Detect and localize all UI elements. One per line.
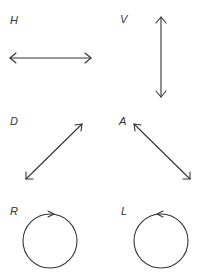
panel-r: R	[10, 205, 77, 268]
vertical-double-arrow-icon	[156, 17, 166, 97]
label-v: V	[120, 13, 129, 25]
clockwise-circle-arrow-icon	[23, 211, 77, 268]
panel-d: D	[10, 115, 82, 179]
counterclockwise-circle-arrow-icon	[134, 211, 188, 268]
label-d: D	[10, 115, 18, 127]
diagonal-double-arrow-icon	[26, 124, 82, 179]
panel-v: V	[120, 13, 166, 97]
panel-l: L	[121, 205, 188, 268]
horizontal-double-arrow-icon	[10, 53, 91, 63]
panel-a: A	[118, 115, 190, 179]
polarization-diagram: H V D A R	[0, 0, 200, 278]
antidiagonal-double-arrow-icon	[134, 124, 190, 179]
label-r: R	[10, 205, 18, 217]
label-a: A	[118, 115, 126, 127]
panel-h: H	[10, 14, 91, 63]
label-h: H	[10, 14, 18, 26]
label-l: L	[121, 205, 127, 217]
